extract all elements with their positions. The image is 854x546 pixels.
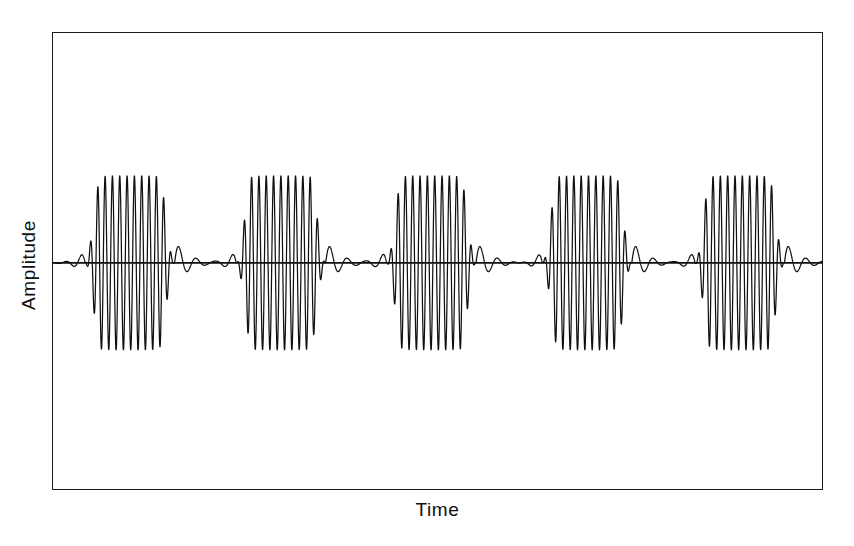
waveform-figure: Amplitude Time xyxy=(0,0,854,546)
x-axis-title: Time xyxy=(52,498,823,522)
waveform-trace xyxy=(52,32,823,490)
y-axis-title: Amplitude xyxy=(17,115,41,415)
